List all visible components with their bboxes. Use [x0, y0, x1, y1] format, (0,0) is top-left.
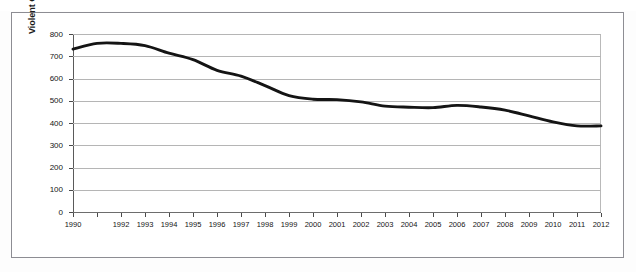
x-tick-label-2007: 2007 — [468, 220, 494, 229]
scan-top-strip — [0, 0, 636, 11]
x-tick-mark-2006 — [457, 213, 458, 217]
y-tick-label-200: 200 — [41, 163, 63, 172]
x-tick-mark-2000 — [313, 213, 314, 217]
x-tick-mark-1991 — [97, 213, 98, 217]
x-tick-mark-1997 — [241, 213, 242, 217]
y-tick-label-700: 700 — [41, 52, 63, 61]
x-tick-mark-1998 — [265, 213, 266, 217]
series-line-violent-crime-rate — [73, 43, 601, 126]
x-tick-mark-2012 — [601, 213, 602, 217]
x-tick-label-1998: 1998 — [252, 220, 278, 229]
x-tick-label-2010: 2010 — [540, 220, 566, 229]
x-tick-mark-2011 — [577, 213, 578, 217]
x-tick-mark-2009 — [529, 213, 530, 217]
y-tick-label-500: 500 — [41, 96, 63, 105]
x-tick-mark-1995 — [193, 213, 194, 217]
x-tick-label-2011: 2011 — [564, 220, 590, 229]
y-tick-label-800: 800 — [41, 30, 63, 39]
x-tick-mark-1990 — [73, 213, 74, 217]
x-tick-label-1999: 1999 — [276, 220, 302, 229]
x-tick-label-1996: 1996 — [204, 220, 230, 229]
x-tick-mark-2005 — [433, 213, 434, 217]
y-axis-title-label: Violent Crime Rate (per 100,000 resident… — [26, 0, 38, 34]
scan-bottom-band — [0, 259, 636, 272]
y-tick-label-400: 400 — [41, 119, 63, 128]
x-tick-mark-2003 — [385, 213, 386, 217]
x-tick-mark-2008 — [505, 213, 506, 217]
y-tick-label-100: 100 — [41, 185, 63, 194]
x-tick-label-1992: 1992 — [108, 220, 134, 229]
x-tick-label-2002: 2002 — [348, 220, 374, 229]
x-tick-mark-1999 — [289, 213, 290, 217]
x-tick-label-2009: 2009 — [516, 220, 542, 229]
x-tick-label-2008: 2008 — [492, 220, 518, 229]
x-tick-label-1990: 1990 — [60, 220, 86, 229]
x-tick-mark-1994 — [169, 213, 170, 217]
y-tick-label-600: 600 — [41, 74, 63, 83]
x-tick-label-1993: 1993 — [132, 220, 158, 229]
x-tick-mark-2004 — [409, 213, 410, 217]
x-tick-label-2012: 2012 — [588, 220, 614, 229]
x-tick-mark-2002 — [361, 213, 362, 217]
x-tick-mark-2001 — [337, 213, 338, 217]
chart-figure: Violent Crime Rate (per 100,000 resident… — [0, 0, 636, 272]
x-tick-label-2000: 2000 — [300, 220, 326, 229]
series-line-chart — [73, 34, 601, 212]
x-tick-label-1997: 1997 — [228, 220, 254, 229]
x-tick-label-2003: 2003 — [372, 220, 398, 229]
x-tick-mark-2007 — [481, 213, 482, 217]
x-tick-mark-1996 — [217, 213, 218, 217]
x-tick-mark-1992 — [121, 213, 122, 217]
x-tick-label-2006: 2006 — [444, 220, 470, 229]
x-tick-mark-2010 — [553, 213, 554, 217]
y-tick-label-0: 0 — [41, 208, 63, 217]
x-tick-mark-1993 — [145, 213, 146, 217]
x-tick-label-2005: 2005 — [420, 220, 446, 229]
y-tick-label-300: 300 — [41, 141, 63, 150]
x-tick-label-1995: 1995 — [180, 220, 206, 229]
x-tick-label-2001: 2001 — [324, 220, 350, 229]
x-tick-label-2004: 2004 — [396, 220, 422, 229]
x-tick-label-1994: 1994 — [156, 220, 182, 229]
